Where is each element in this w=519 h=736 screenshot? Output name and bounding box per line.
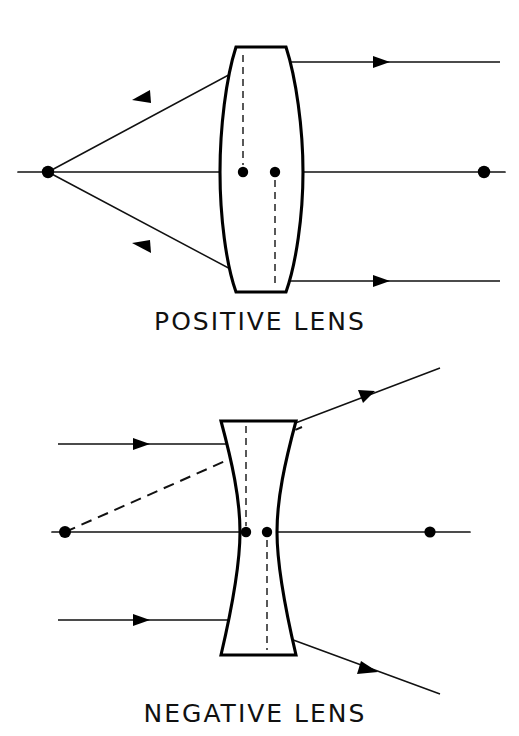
- negative-principal-point-first: [241, 527, 251, 537]
- positive-lower-ray-arrow-in: [373, 275, 390, 287]
- negative-lens-caption: NEGATIVE LENS: [144, 699, 367, 728]
- negative-focal-point-right: [424, 526, 435, 537]
- positive-lens-panel: POSITIVE LENS: [18, 47, 505, 336]
- positive-lens-body: [220, 47, 303, 292]
- positive-upper-ray-arrow-in: [373, 56, 390, 68]
- negative-virtual-focal-point-left: [59, 526, 71, 538]
- negative-lens-panel: NEGATIVE LENS: [52, 368, 470, 728]
- positive-lower-ray-arrow-out: [132, 240, 151, 253]
- positive-principal-point-second: [270, 167, 280, 177]
- positive-principal-point-first: [238, 167, 248, 177]
- negative-principal-point-second: [262, 527, 272, 537]
- positive-focal-point-left: [42, 166, 54, 178]
- negative-lens-body: [221, 421, 296, 655]
- positive-lens-caption: POSITIVE LENS: [154, 307, 366, 336]
- negative-lower-ray-arrow-out: [357, 661, 378, 674]
- positive-focal-point-right: [478, 166, 490, 178]
- negative-upper-ray-arrow-in: [133, 438, 150, 450]
- lens-diagram-figure: POSITIVE LENS: [0, 0, 519, 736]
- negative-upper-ray-arrow-out: [358, 390, 375, 403]
- negative-lower-ray-arrow-in: [133, 614, 150, 626]
- diagram-canvas: POSITIVE LENS: [0, 0, 519, 736]
- positive-upper-ray-arrow-out: [132, 90, 151, 103]
